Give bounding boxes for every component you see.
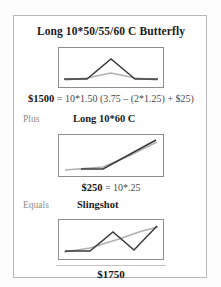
- long-call-chart-svg: [59, 135, 163, 176]
- slingshot-payoff-chart: [58, 219, 164, 260]
- butterfly-chart-svg: [59, 48, 163, 87]
- long-call-amount: $250: [81, 182, 102, 193]
- butterfly-title: Long 10*50/55/60 C Butterfly: [14, 25, 208, 37]
- diagram-frame: Long 10*50/55/60 C Butterfly $1500 = 10*…: [13, 15, 207, 278]
- slingshot-title: Slingshot: [77, 199, 118, 210]
- connector-plus: Plus: [23, 114, 39, 124]
- long-call-formula-rest: = 10*.25: [105, 182, 141, 193]
- total-divider: [56, 265, 166, 266]
- page-background: Long 10*50/55/60 C Butterfly $1500 = 10*…: [0, 0, 221, 287]
- connector-equals: Equals: [23, 200, 49, 210]
- long-call-payoff-chart: [58, 134, 164, 177]
- butterfly-amount: $1500: [28, 93, 54, 104]
- slingshot-payoff-line: [65, 226, 157, 251]
- total-amount: $1750: [14, 268, 208, 280]
- butterfly-payoff-chart: [58, 47, 164, 88]
- long-call-title: Long 10*60 C: [73, 113, 135, 124]
- long-call-payoff-line: [81, 140, 156, 169]
- butterfly-formula-rest: = 10*1.50 (3.75 – (2*1.25) + $25): [57, 93, 194, 104]
- slingshot-chart-svg: [59, 220, 163, 259]
- long-call-formula: $250 = 10*.25: [14, 182, 208, 193]
- butterfly-payoff-line: [64, 59, 158, 79]
- butterfly-formula: $1500 = 10*1.50 (3.75 – (2*1.25) + $25): [14, 93, 208, 104]
